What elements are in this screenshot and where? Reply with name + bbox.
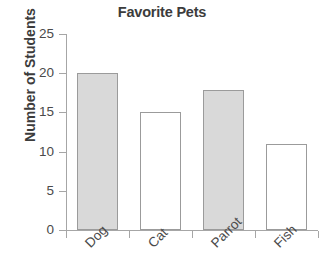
x-tick-mark <box>66 231 67 238</box>
y-tick-mark <box>59 34 66 35</box>
y-axis-line <box>66 34 67 231</box>
y-tick-label: 5 <box>0 184 54 198</box>
bar-chart: Favorite Pets Number of Students 0510152… <box>0 0 324 280</box>
y-tick-label: 25 <box>0 27 54 41</box>
y-tick-mark <box>59 73 66 74</box>
y-tick-mark <box>59 230 66 231</box>
y-tick-label: 0 <box>0 223 54 237</box>
y-tick-label: 10 <box>0 145 54 159</box>
x-tick-mark <box>255 231 256 238</box>
chart-title: Favorite Pets <box>0 4 324 20</box>
bar-fish <box>266 144 307 230</box>
x-tick-mark <box>129 231 130 238</box>
y-tick-mark <box>59 112 66 113</box>
y-tick-label: 20 <box>0 66 54 80</box>
bar-parrot <box>203 90 244 230</box>
bar-dog <box>77 73 118 230</box>
y-tick-label: 15 <box>0 105 54 119</box>
bar-cat <box>140 112 181 230</box>
y-tick-mark <box>59 191 66 192</box>
x-tick-mark <box>318 231 319 238</box>
x-tick-mark <box>192 231 193 238</box>
y-tick-mark <box>59 152 66 153</box>
